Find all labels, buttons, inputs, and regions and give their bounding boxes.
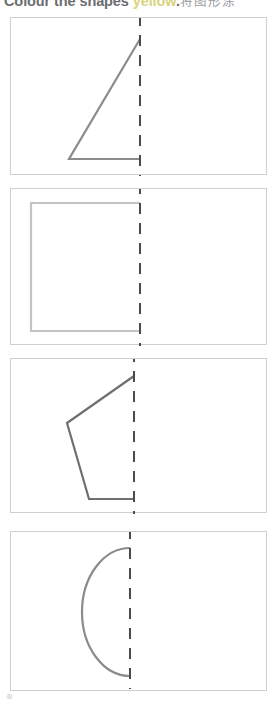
half-pentagon-outline <box>67 376 134 499</box>
rectangle-figure <box>11 189 268 346</box>
shape-panel-circle[interactable] <box>10 531 267 691</box>
half-triangle-outline <box>69 39 140 159</box>
instruction-prefix: Colour the shapes <box>4 0 133 9</box>
instruction-accent-word: yellow <box>133 0 176 9</box>
triangle-figure <box>11 18 268 176</box>
page-speck <box>6 693 12 699</box>
circle-figure <box>11 532 268 692</box>
shape-panel-triangle[interactable] <box>10 17 267 175</box>
half-rectangle-outline <box>31 203 140 331</box>
shape-panel-rectangle[interactable] <box>10 188 267 345</box>
instruction-header: Colour the shapes yellow.将图形涂 <box>0 0 274 13</box>
half-circle-arc <box>82 548 130 676</box>
shape-panel-pentagon[interactable] <box>10 358 267 513</box>
instruction-cjk-text: 将图形涂 <box>180 0 236 9</box>
pentagon-figure <box>11 359 268 514</box>
instruction-text: Colour the shapes yellow.将图形涂 <box>4 0 236 10</box>
